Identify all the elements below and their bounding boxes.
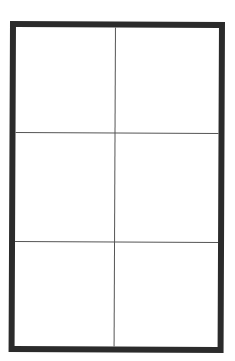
grid-cell-r2-c2	[115, 133, 218, 241]
grid-cell-r3-c1	[15, 242, 114, 346]
grid-cell-r2-c1	[15, 133, 114, 241]
grid-cell-r1-c1	[16, 27, 115, 132]
grid-cell-r1-c2	[116, 27, 219, 132]
grid-frame	[9, 21, 225, 353]
grid-cell-r3-c2	[115, 242, 218, 346]
